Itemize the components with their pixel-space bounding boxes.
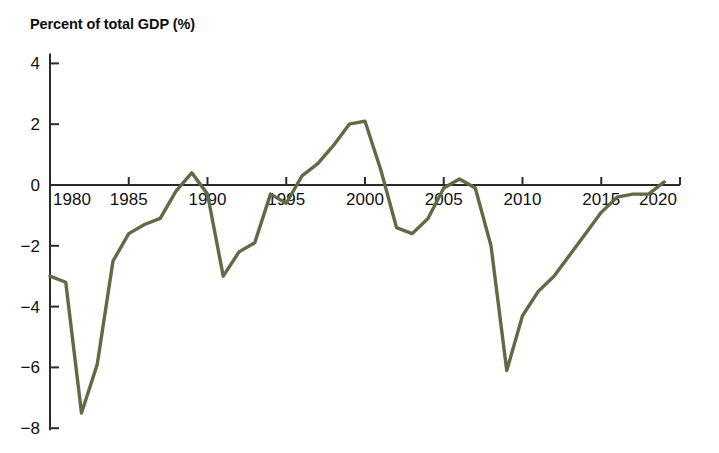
y-axis-tick-label: −4: [21, 298, 40, 317]
x-axis-tick-label: 1995: [267, 190, 305, 209]
y-axis-tick-label: 0: [31, 176, 40, 195]
x-axis-tick-label: 1985: [110, 190, 148, 209]
y-axis-tick-label: −6: [21, 358, 40, 377]
chart-figure: Percent of total GDP (%) 420−2−4−6−81980…: [0, 0, 719, 453]
line-chart-plot: 420−2−4−6−819801985199019952000200520102…: [0, 0, 719, 453]
x-axis-tick-label: 2005: [425, 190, 463, 209]
x-axis-tick-label: 2010: [504, 190, 542, 209]
x-axis-tick-label: 1980: [53, 190, 91, 209]
y-axis-tick-label: 4: [31, 54, 40, 73]
data-series-line: [50, 121, 664, 413]
y-axis-tick-label: 2: [31, 115, 40, 134]
y-axis-tick-label: −8: [21, 419, 40, 438]
x-axis-tick-label: 2000: [346, 190, 384, 209]
y-axis-tick-label: −2: [21, 237, 40, 256]
